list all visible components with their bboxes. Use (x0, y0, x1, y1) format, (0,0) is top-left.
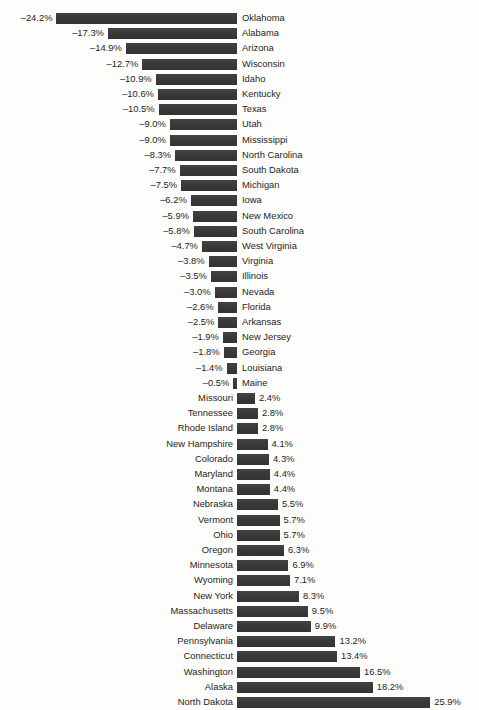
bar-category-label: New York (193, 590, 233, 603)
bar (126, 43, 237, 54)
bar-category-label: New Jersey (242, 331, 291, 344)
bar-category-label: North Dakota (178, 696, 233, 709)
bar-row: Connecticut13.4% (0, 649, 479, 664)
bar-value-label: –5.9% (162, 210, 189, 223)
bar (218, 317, 237, 328)
bar-row: –9.0%Utah (0, 117, 479, 132)
bar-row: –17.3%Alabama (0, 26, 479, 41)
bar-category-label: Pennsylvania (177, 635, 233, 648)
bar (175, 150, 237, 161)
bar (237, 484, 270, 495)
bar-value-label: 2.4% (259, 392, 280, 405)
bar-row: –10.9%Idaho (0, 72, 479, 87)
bar-category-label: Florida (242, 301, 271, 314)
bar (237, 606, 308, 617)
bar-category-label: Vermont (198, 514, 233, 527)
bar-value-label: 5.7% (284, 529, 305, 542)
bar-category-label: Washington (184, 666, 233, 679)
bar-row: Montana4.4% (0, 482, 479, 497)
bar-row: Ohio5.7% (0, 528, 479, 543)
bar (237, 697, 430, 708)
bar-value-label: 2.8% (262, 407, 283, 420)
bar (209, 256, 237, 267)
bar (218, 302, 237, 313)
bar-value-label: –6.2% (160, 194, 187, 207)
bar-category-label: Tennessee (188, 407, 233, 420)
bar-value-label: 4.3% (273, 453, 294, 466)
bar-row: –1.8%Georgia (0, 345, 479, 360)
bar-row: –3.0%Nevada (0, 285, 479, 300)
bar-row: Washington16.5% (0, 665, 479, 680)
bar-row: –3.5%Illinois (0, 269, 479, 284)
bar (237, 651, 337, 662)
bar-value-label: –8.3% (145, 149, 172, 162)
bar-category-label: Idaho (242, 73, 265, 86)
bar (193, 211, 237, 222)
bar (181, 180, 237, 191)
bar (237, 393, 255, 404)
bar-row: –1.4%Louisiana (0, 361, 479, 376)
bar-value-label: 9.5% (312, 605, 333, 618)
bar-row: Missouri2.4% (0, 391, 479, 406)
bar-row: Rhode Island2.8% (0, 421, 479, 436)
bar (237, 515, 280, 526)
bar (156, 74, 237, 85)
bar-category-label: Wisconsin (242, 58, 285, 71)
bar-value-label: –3.0% (184, 286, 211, 299)
bar-row: –6.2%Iowa (0, 193, 479, 208)
bar-category-label: Connecticut (183, 650, 233, 663)
bar-value-label: –1.8% (193, 346, 220, 359)
bar (170, 119, 237, 130)
bar-category-label: Arizona (242, 42, 274, 55)
bar-category-label: Oklahoma (242, 12, 285, 25)
bar (233, 378, 237, 389)
bar-value-label: –7.5% (150, 179, 177, 192)
bar-row: Colorado4.3% (0, 452, 479, 467)
bar-value-label: 16.5% (364, 666, 391, 679)
bar (142, 59, 237, 70)
bar (237, 408, 258, 419)
bar-value-label: –24.2% (21, 12, 53, 25)
bar (194, 226, 237, 237)
bar-value-label: –10.5% (123, 103, 155, 116)
bar-row: –5.8%South Carolina (0, 224, 479, 239)
bar-category-label: Montana (197, 483, 233, 496)
bar-value-label: –17.3% (72, 27, 104, 40)
bar-row: Alaska18.2% (0, 680, 479, 695)
bar (56, 13, 237, 24)
bar-row: –10.5%Texas (0, 102, 479, 117)
bar-value-label: 25.9% (434, 696, 461, 709)
bar-row: –2.6%Florida (0, 300, 479, 315)
bar-category-label: Ohio (213, 529, 233, 542)
bar (180, 165, 237, 176)
bar-value-label: –10.9% (120, 73, 152, 86)
bar-row: –14.9%Arizona (0, 41, 479, 56)
bar-value-label: 18.2% (377, 681, 404, 694)
bar-value-label: –0.5% (203, 377, 230, 390)
bar-category-label: Michigan (242, 179, 280, 192)
bar-value-label: 5.5% (282, 498, 303, 511)
bar (237, 667, 360, 678)
bar-value-label: 13.2% (339, 635, 366, 648)
bar-row: North Dakota25.9% (0, 695, 479, 710)
bar-value-label: –7.7% (149, 164, 176, 177)
bar-value-label: –2.6% (187, 301, 214, 314)
bar-value-label: –5.8% (163, 225, 190, 238)
bar-row: –24.2%Oklahoma (0, 11, 479, 26)
bar (215, 287, 237, 298)
bar (170, 135, 237, 146)
bar-category-label: New Hampshire (166, 438, 233, 451)
bar-row: Wyoming7.1% (0, 573, 479, 588)
bar (237, 439, 268, 450)
bar-row: –0.5%Maine (0, 376, 479, 391)
bar-category-label: West Virginia (242, 240, 297, 253)
bar-row: Vermont5.7% (0, 513, 479, 528)
bar-row: Minnesota6.9% (0, 558, 479, 573)
bar-row: New Hampshire4.1% (0, 437, 479, 452)
bar-row: Pennsylvania13.2% (0, 634, 479, 649)
bar-category-label: South Carolina (242, 225, 304, 238)
bar-value-label: –3.5% (180, 270, 207, 283)
bar-value-label: –10.6% (122, 88, 154, 101)
bar-row: –8.3%North Carolina (0, 148, 479, 163)
bar (159, 104, 237, 115)
